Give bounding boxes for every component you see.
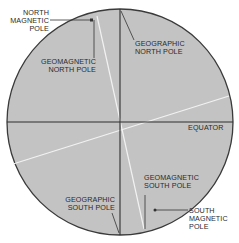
label-north-magnetic-pole: NORTH MAGNETIC POLE	[6, 9, 49, 33]
label-south-magnetic-pole: SOUTH MAGNETIC POLE	[189, 207, 228, 231]
north-magnetic-pole-marker	[90, 19, 93, 22]
label-geomagnetic-north-pole: GEOMAGNETIC NORTH POLE	[34, 58, 96, 74]
label-geomagnetic-south-pole: GEOMAGNETIC SOUTH POLE	[144, 174, 199, 190]
label-geographic-south-pole: GEOGRAPHIC SOUTH POLE	[60, 196, 115, 212]
label-equator: EQUATOR	[188, 124, 224, 132]
label-geographic-north-pole: GEOGRAPHIC NORTH POLE	[135, 40, 185, 56]
